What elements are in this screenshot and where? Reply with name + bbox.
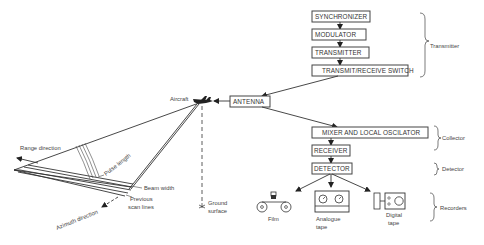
mixer-label: MIXER AND LOCAL OSCILATOR	[322, 129, 421, 136]
digital-tape-icon	[374, 193, 405, 209]
collector-brace	[434, 126, 441, 150]
detector-brace	[434, 163, 439, 175]
previous-scan-lines-label-2: scan lines	[128, 204, 154, 210]
radar-system-diagram: SYNCHRONIZER MODULATOR TRANSMITTER TRANS…	[0, 0, 484, 245]
previous-scan-lines-label-1: Previous	[130, 196, 153, 202]
detector-group-label: Detector	[442, 166, 464, 172]
beam-near-edge	[131, 104, 199, 189]
transmitter-brace	[420, 13, 429, 77]
receiver-chain: MIXER AND LOCAL OSCILATOR RECEIVER DETEC…	[312, 127, 428, 174]
range-direction-arrow	[17, 158, 38, 163]
arrow-detector-to-film	[296, 174, 330, 191]
collector-group-label: Collector	[442, 135, 465, 141]
tr-switch-box: TRANSMIT/RECEIVE SWITCH	[312, 65, 414, 76]
modulator-label: MODULATOR	[315, 31, 356, 38]
receiver-box: RECEIVER	[312, 145, 350, 156]
detector-box: DETECTOR	[312, 163, 352, 174]
transmitter-label: TRANSMITTER	[315, 49, 362, 56]
arrow-switch-to-antenna	[262, 76, 338, 96]
aircraft-icon	[193, 96, 213, 104]
antenna-box: ANTENNA	[230, 96, 270, 107]
mixer-box: MIXER AND LOCAL OSCILATOR	[312, 127, 428, 138]
film-recorder-icon	[257, 192, 291, 212]
receiver-label: RECEIVER	[314, 147, 348, 154]
pulse-length-label: Pulse length	[103, 152, 132, 176]
transmitter-group-label: Transmitter	[430, 43, 459, 49]
antenna-label: ANTENNA	[233, 98, 265, 105]
recorders-group-label: Recorders	[440, 205, 467, 211]
film-label: Film	[268, 216, 279, 222]
transmitter-box: TRANSMITTER	[312, 47, 369, 58]
recorders-brace	[430, 193, 437, 221]
synchronizer-box: SYNCHRONIZER	[312, 11, 370, 22]
pulse-wavefront	[76, 143, 99, 179]
arrow-antenna-to-mixer	[262, 107, 337, 127]
aircraft-label: Aircraft	[170, 96, 189, 102]
modulator-box: MODULATOR	[312, 29, 366, 40]
range-direction-label: Range direction	[20, 145, 61, 151]
analogue-label-line1: Analogue	[316, 216, 341, 222]
azimuth-direction-label: Azimuth direction	[55, 209, 98, 231]
analogue-tape-icon	[315, 191, 349, 212]
arrow-detector-to-digital	[332, 174, 370, 191]
analogue-label-line2: tape	[316, 224, 327, 230]
ground-surface-marker	[199, 203, 205, 208]
ground-label-line1: Ground	[208, 200, 227, 206]
beam-near-edge-2	[129, 104, 197, 189]
beam-width-label: Beam width	[144, 185, 174, 191]
digital-label-line2: tape	[388, 220, 399, 226]
tr-switch-label: TRANSMIT/RECEIVE SWITCH	[322, 67, 414, 74]
synchronizer-label: SYNCHRONIZER	[315, 13, 368, 20]
transmitter-chain: SYNCHRONIZER MODULATOR TRANSMITTER TRANS…	[312, 11, 414, 76]
ground-label-line2: surface	[208, 208, 227, 214]
detector-label: DETECTOR	[314, 165, 350, 172]
digital-label-line1: Digital	[386, 212, 402, 218]
azimuth-direction-arrow	[102, 197, 118, 207]
